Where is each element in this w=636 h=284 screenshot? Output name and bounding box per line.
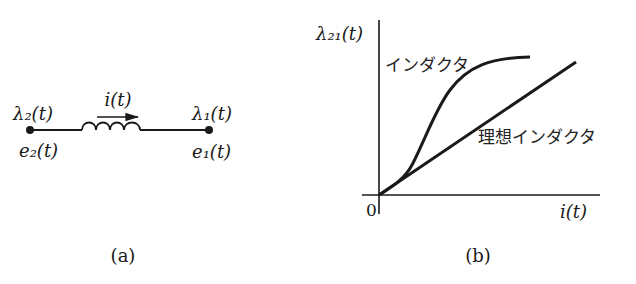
x-axis-label: i(t): [560, 201, 587, 222]
right-flux-label: λ₁(t): [191, 103, 232, 124]
caption-a: (a): [111, 245, 136, 266]
caption-b: (b): [465, 245, 491, 266]
left-flux-label: λ₂(t): [12, 103, 53, 124]
figure-b-graph: λ₂₁(t) i(t) 0 インダクタ 理想インダクタ (b): [315, 20, 600, 266]
inductor-icon: [82, 123, 140, 131]
left-potential-label: e₂(t): [19, 140, 58, 161]
ideal-inductor-label: 理想インダクタ: [478, 127, 596, 147]
inductor-curve: [379, 57, 530, 195]
figure-canvas: i(t) λ₂(t) e₂(t) λ₁(t) e₁(t) (a) λ₂₁(t) …: [0, 0, 636, 284]
node-right: [205, 126, 213, 134]
y-axis-label: λ₂₁(t): [315, 23, 363, 44]
right-potential-label: e₁(t): [192, 141, 231, 162]
origin-label: 0: [366, 200, 377, 220]
inductor-curve-label: インダクタ: [385, 55, 469, 75]
figure-a-circuit: i(t) λ₂(t) e₂(t) λ₁(t) e₁(t) (a): [12, 89, 232, 266]
current-label: i(t): [104, 89, 131, 110]
node-left: [26, 126, 34, 134]
